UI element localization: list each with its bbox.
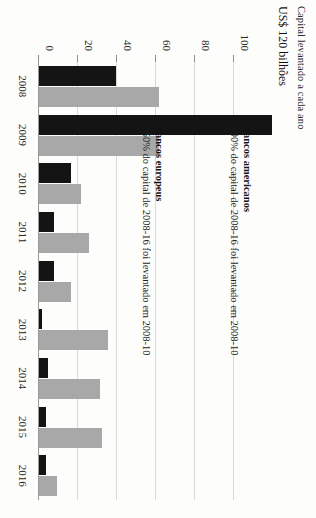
bar-bancos-europeus-2016 — [38, 476, 57, 496]
axis-tick-mark — [116, 55, 117, 62]
bar-bancos-americanos-2015 — [38, 407, 46, 427]
chart-header: Capital levantado a cada ano US$ 120 bil… — [275, 6, 308, 130]
bar-bancos-americanos-2014 — [38, 358, 48, 378]
annotation-bancos-americanos: Bancos americanos ~90% do capital de 200… — [228, 126, 254, 356]
bar-group-2008: 2008 — [38, 62, 272, 111]
bar-bancos-europeus-2008 — [38, 87, 159, 107]
bar-bancos-europeus-2013 — [38, 330, 108, 350]
bar-bancos-europeus-2015 — [38, 428, 102, 448]
axis-tick-mark — [194, 55, 195, 62]
category-label-2016: 2016 — [17, 465, 29, 487]
category-label-2010: 2010 — [17, 173, 29, 195]
axis-tick-mark — [155, 55, 156, 62]
axis-tick-mark — [233, 55, 234, 62]
axis-tick-label: 40 — [122, 40, 134, 51]
axis-tick-label: 60 — [161, 40, 173, 51]
bar-bancos-americanos-2016 — [38, 455, 46, 475]
axis-tick-mark — [77, 55, 78, 62]
axis-tick-label: 100 — [239, 35, 251, 52]
axis-tick-label: 80 — [200, 40, 212, 51]
bar-bancos-europeus-2010 — [38, 184, 81, 204]
bar-group-2015: 2015 — [38, 403, 272, 452]
annotation-eu-subtitle: ~50% do capital de 2008-16 foi levantado… — [140, 126, 153, 356]
bar-chart-figure: Capital levantado a cada ano US$ 120 bil… — [0, 0, 316, 518]
bar-bancos-americanos-2011 — [38, 212, 54, 232]
category-label-2008: 2008 — [17, 75, 29, 97]
chart-subtitle: US$ 120 bilhões — [275, 6, 290, 130]
annotation-us-subtitle: ~90% do capital de 2008-16 foi levantado… — [228, 126, 241, 356]
bar-bancos-europeus-2012 — [38, 282, 71, 302]
bar-bancos-americanos-2010 — [38, 163, 71, 183]
category-label-2009: 2009 — [17, 124, 29, 146]
chart-title: Capital levantado a cada ano — [295, 6, 308, 130]
category-label-2014: 2014 — [17, 367, 29, 389]
bar-bancos-europeus-2011 — [38, 233, 89, 253]
bar-bancos-americanos-2008 — [38, 66, 116, 86]
category-label-2015: 2015 — [17, 416, 29, 438]
category-label-2011: 2011 — [17, 222, 29, 244]
category-label-2012: 2012 — [17, 270, 29, 292]
annotation-us-title: Bancos americanos — [241, 126, 254, 356]
zero-baseline — [38, 61, 39, 500]
axis-tick-label: 20 — [83, 40, 95, 51]
axis-tick-label: 0 — [44, 46, 56, 52]
bar-bancos-americanos-2012 — [38, 261, 54, 281]
category-label-2013: 2013 — [17, 319, 29, 341]
chart-stage: Capital levantado a cada ano US$ 120 bil… — [0, 0, 316, 518]
bar-group-2016: 2016 — [38, 451, 272, 500]
annotation-eu-title: Bancos europeus — [153, 126, 166, 356]
annotation-bancos-europeus: Bancos europeus ~50% do capital de 2008-… — [140, 126, 166, 356]
bar-bancos-europeus-2014 — [38, 379, 100, 399]
bar-group-2014: 2014 — [38, 354, 272, 403]
